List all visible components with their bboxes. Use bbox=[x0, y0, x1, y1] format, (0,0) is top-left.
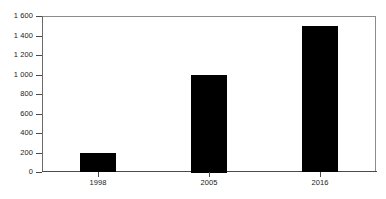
y-axis-tick bbox=[36, 153, 42, 154]
x-axis-tick bbox=[320, 172, 321, 177]
bar-1998 bbox=[80, 153, 116, 172]
y-axis-tick-label: 1 200 bbox=[14, 51, 33, 59]
y-axis-tick bbox=[36, 75, 42, 76]
y-axis-tick-label: 200 bbox=[20, 149, 33, 157]
y-axis-tick bbox=[36, 114, 42, 115]
y-axis-tick-label: 1 000 bbox=[14, 71, 33, 79]
bar-chart: 02004006008001 0001 2001 4001 600 199820… bbox=[0, 0, 386, 199]
x-axis-tick bbox=[209, 172, 210, 177]
y-axis-tick bbox=[36, 55, 42, 56]
y-axis-tick bbox=[36, 94, 42, 95]
y-axis-tick-label: 800 bbox=[20, 90, 33, 98]
x-axis-tick bbox=[98, 172, 99, 177]
y-axis-tick bbox=[36, 172, 42, 173]
y-axis-tick bbox=[36, 36, 42, 37]
y-axis-tick-label: 600 bbox=[20, 110, 33, 118]
y-axis-tick-label: 0 bbox=[29, 168, 33, 176]
y-axis-spine bbox=[42, 16, 43, 172]
y-axis-tick-label: 400 bbox=[20, 129, 33, 137]
bar-2016 bbox=[302, 26, 338, 172]
y-axis-tick bbox=[36, 16, 42, 17]
bar-2005 bbox=[191, 75, 227, 173]
x-axis-tick-label: 1998 bbox=[68, 179, 128, 187]
x-axis-tick-label: 2016 bbox=[290, 179, 350, 187]
y-axis-tick-label: 1 600 bbox=[14, 12, 33, 20]
y-axis-tick-label: 1 400 bbox=[14, 32, 33, 40]
x-axis-tick-label: 2005 bbox=[179, 179, 239, 187]
y-axis-tick bbox=[36, 133, 42, 134]
